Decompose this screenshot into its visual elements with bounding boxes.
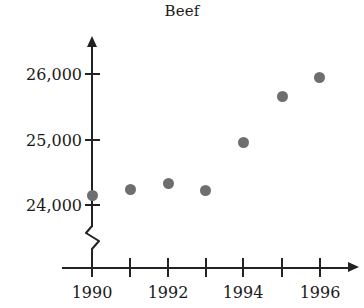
point-1994 [238, 137, 249, 148]
x-axis-tick [242, 258, 244, 277]
y-axis-arrow-icon [87, 36, 97, 47]
x-axis-tick [91, 258, 93, 277]
y-axis-label: 25,000 [0, 131, 82, 149]
point-1995 [277, 91, 288, 102]
y-axis-label-text: 25,000 [4, 131, 82, 150]
point-1992 [163, 178, 174, 189]
x-axis-label: 1992 [138, 283, 198, 302]
y-axis-label-text: 26,000 [4, 65, 82, 84]
beef-scatter-chart: Beef 26,00025,00024,000 1990199219941996 [0, 0, 364, 308]
x-axis-tick [129, 258, 131, 277]
x-axis-tick [205, 258, 207, 277]
x-axis-arrow-icon [348, 262, 359, 272]
y-axis-tick [85, 139, 100, 141]
x-axis-label: 1996 [290, 283, 350, 302]
point-1993 [200, 185, 211, 196]
axis-break-zigzag-icon [82, 222, 104, 254]
point-1991 [125, 184, 136, 195]
x-axis-tick [167, 258, 169, 277]
y-axis-label: 26,000 [0, 65, 82, 83]
y-axis-tick [85, 73, 100, 75]
y-axis-label-text: 24,000 [4, 196, 82, 215]
y-axis-label: 24,000 [0, 196, 82, 214]
y-axis-tick [85, 204, 100, 206]
chart-title: Beef [0, 2, 364, 20]
point-1990 [87, 190, 98, 201]
x-axis-label: 1994 [213, 283, 273, 302]
x-axis-tick [281, 258, 283, 277]
point-1996 [314, 72, 325, 83]
x-axis-tick [319, 258, 321, 277]
x-axis-label: 1990 [62, 283, 122, 302]
